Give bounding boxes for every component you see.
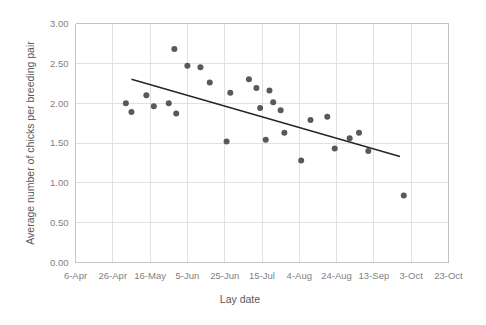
data-point bbox=[224, 138, 230, 144]
trend-line bbox=[131, 79, 400, 156]
x-tick-label: 16-May bbox=[134, 270, 166, 281]
data-point bbox=[298, 158, 304, 164]
y-tick-label: 3.00 bbox=[50, 18, 69, 29]
y-axis-tick-labels: 0.000.501.001.502.002.503.00 bbox=[50, 18, 69, 268]
data-point bbox=[263, 137, 269, 143]
x-tick-label: 3-Oct bbox=[400, 270, 424, 281]
data-point bbox=[246, 76, 252, 82]
x-axis-title: Lay date bbox=[220, 293, 260, 305]
x-tick-label: 5-Jun bbox=[176, 270, 200, 281]
y-axis-title: Average number of chicks per breeding pa… bbox=[24, 41, 36, 245]
data-point bbox=[227, 90, 233, 96]
y-tick-label: 2.50 bbox=[50, 58, 69, 69]
x-tick-label: 24-Aug bbox=[321, 270, 352, 281]
scatter-chart: 0.000.501.001.502.002.503.00 6-Apr26-Apr… bbox=[0, 0, 486, 325]
data-point bbox=[173, 111, 179, 117]
data-point bbox=[332, 146, 338, 152]
x-tick-label: 13-Sep bbox=[359, 270, 390, 281]
data-point bbox=[197, 64, 203, 70]
data-point bbox=[281, 130, 287, 136]
y-tick-label: 1.00 bbox=[50, 177, 69, 188]
x-tick-label: 6-Apr bbox=[64, 270, 87, 281]
data-point bbox=[151, 103, 157, 109]
data-point bbox=[266, 87, 272, 93]
data-points bbox=[123, 46, 407, 199]
chart-canvas: 0.000.501.001.502.002.503.00 6-Apr26-Apr… bbox=[0, 0, 486, 325]
data-point bbox=[356, 130, 362, 136]
y-tick-label: 0.50 bbox=[50, 217, 69, 228]
data-point bbox=[324, 114, 330, 120]
data-point bbox=[365, 148, 371, 154]
x-tick-label: 26-Apr bbox=[99, 270, 128, 281]
y-tick-label: 1.50 bbox=[50, 137, 69, 148]
data-point bbox=[184, 63, 190, 69]
data-point bbox=[143, 92, 149, 98]
data-point bbox=[307, 117, 313, 123]
y-tick-label: 2.00 bbox=[50, 98, 69, 109]
data-point bbox=[207, 79, 213, 85]
data-point bbox=[257, 105, 263, 111]
data-point bbox=[171, 46, 177, 52]
data-point bbox=[401, 193, 407, 199]
data-point bbox=[166, 100, 172, 106]
data-point bbox=[253, 85, 259, 91]
x-axis-tick-labels: 6-Apr26-Apr16-May5-Jun25-Jun15-Jul4-Aug2… bbox=[64, 270, 463, 281]
data-point bbox=[278, 107, 284, 113]
data-point bbox=[270, 99, 276, 105]
x-tick-label: 23-Oct bbox=[434, 270, 463, 281]
x-tick-label: 25-Jun bbox=[210, 270, 239, 281]
x-tick-label: 4-Aug bbox=[287, 270, 312, 281]
data-point bbox=[347, 135, 353, 141]
trendline-segment bbox=[131, 79, 400, 156]
data-point bbox=[128, 109, 134, 115]
x-tick-label: 15-Jul bbox=[249, 270, 275, 281]
data-point bbox=[123, 100, 129, 106]
y-tick-label: 0.00 bbox=[50, 257, 69, 268]
